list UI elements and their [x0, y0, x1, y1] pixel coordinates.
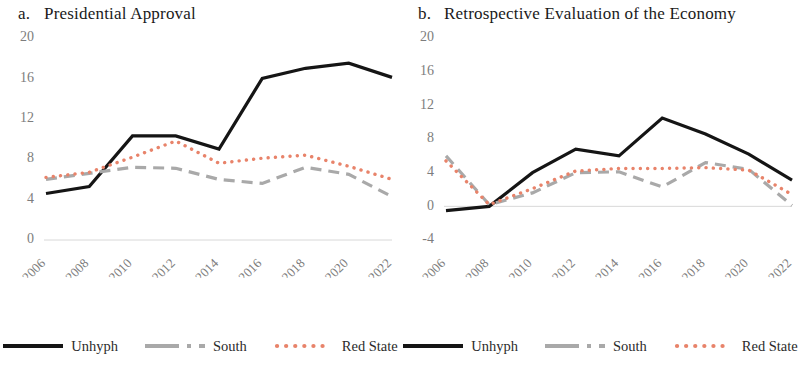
- legend-label-unhyph-b: Unhyph: [471, 338, 518, 355]
- legend-item-red-state-b: Red State: [673, 338, 798, 355]
- panel-b-legend: Unhyph South Red State: [400, 333, 800, 359]
- x-axis-tick-label: 2006: [19, 255, 48, 278]
- series-line-unhyph: [446, 118, 792, 211]
- panel-a-label: a.: [18, 4, 44, 24]
- y-axis-tick-label: 4: [427, 164, 434, 179]
- panel-a-title: a.Presidential Approval: [18, 4, 196, 24]
- y-axis-tick-label: 0: [427, 198, 434, 213]
- y-axis-tick-label: -4: [422, 231, 434, 246]
- x-axis-tick-label: 2022: [765, 256, 794, 278]
- legend-label-south-b: South: [613, 338, 647, 355]
- panel-b-title-text: Retrospective Evaluation of the Economy: [444, 4, 736, 23]
- chart-panel-b: b.Retrospective Evaluation of the Econom…: [400, 0, 800, 367]
- x-axis-tick-label: 2008: [62, 256, 91, 278]
- x-axis-tick-label: 2014: [192, 255, 221, 278]
- panel-b-plot: -404812162020062008201020122014201620182…: [400, 28, 800, 278]
- panel-a-title-text: Presidential Approval: [44, 4, 196, 23]
- panel-b-label: b.: [418, 4, 444, 24]
- series-line-south: [46, 167, 392, 196]
- x-axis-tick-label: 2020: [322, 256, 351, 278]
- legend-swatch-south-b: [544, 339, 606, 353]
- panel-a-svg: 0481216202006200820102012201420162018202…: [0, 28, 400, 278]
- y-axis-tick-label: 0: [27, 231, 34, 246]
- legend-item-unhyph-b: Unhyph: [402, 338, 518, 355]
- panel-b-svg: -404812162020062008201020122014201620182…: [400, 28, 800, 278]
- legend-swatch-south: [144, 339, 206, 353]
- x-axis-tick-label: 2012: [549, 256, 578, 278]
- legend-item-south-b: South: [544, 338, 647, 355]
- x-axis-tick-label: 2022: [365, 256, 394, 278]
- legend-label-red-state-b: Red State: [742, 338, 798, 355]
- x-axis-tick-label: 2012: [149, 256, 178, 278]
- x-axis-tick-label: 2018: [679, 256, 708, 278]
- panel-a-legend: Unhyph South Red State: [0, 333, 400, 359]
- series-line-unhyph: [46, 63, 392, 193]
- y-axis-tick-label: 8: [27, 150, 34, 165]
- legend-swatch-red-state-b: [673, 339, 735, 353]
- legend-swatch-red-state: [273, 339, 335, 353]
- legend-item-unhyph: Unhyph: [2, 338, 118, 355]
- x-axis-tick-label: 2010: [506, 256, 535, 278]
- legend-swatch-unhyph-b: [402, 339, 464, 353]
- x-axis-tick-label: 2014: [592, 255, 621, 278]
- x-axis-tick-label: 2006: [419, 255, 448, 278]
- chart-panel-a: a.Presidential Approval 0481216202006200…: [0, 0, 400, 367]
- y-axis-tick-label: 8: [427, 130, 434, 145]
- legend-label-south: South: [213, 338, 247, 355]
- y-axis-tick-label: 16: [20, 70, 34, 85]
- panel-a-plot: 0481216202006200820102012201420162018202…: [0, 28, 400, 278]
- legend-item-red-state: Red State: [273, 338, 398, 355]
- x-axis-tick-label: 2016: [635, 255, 664, 278]
- x-axis-tick-label: 2010: [106, 256, 135, 278]
- y-axis-tick-label: 4: [27, 191, 34, 206]
- y-axis-tick-label: 12: [20, 110, 34, 125]
- legend-swatch-unhyph: [2, 339, 64, 353]
- y-axis-tick-label: 16: [420, 63, 434, 78]
- y-axis-tick-label: 12: [420, 97, 434, 112]
- legend-item-south: South: [144, 338, 247, 355]
- x-axis-tick-label: 2008: [462, 256, 491, 278]
- panel-b-title: b.Retrospective Evaluation of the Econom…: [418, 4, 736, 24]
- legend-label-unhyph: Unhyph: [71, 338, 118, 355]
- x-axis-tick-label: 2016: [235, 255, 264, 278]
- legend-label-red-state: Red State: [342, 338, 398, 355]
- x-axis-tick-label: 2018: [279, 256, 308, 278]
- x-axis-tick-label: 2020: [722, 256, 751, 278]
- figure: a.Presidential Approval 0481216202006200…: [0, 0, 800, 367]
- y-axis-tick-label: 20: [420, 29, 434, 44]
- y-axis-tick-label: 20: [20, 29, 34, 44]
